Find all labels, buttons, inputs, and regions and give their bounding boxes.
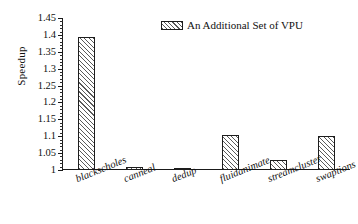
- y-tick-minor: [60, 21, 63, 22]
- legend-swatch-icon: [161, 21, 183, 30]
- y-tick-minor: [60, 75, 63, 76]
- y-tick-minor: [60, 92, 63, 93]
- y-tick-label: 1.3: [43, 63, 56, 74]
- y-tick-label: 1.4: [43, 30, 56, 41]
- bar-fluidanimate: [222, 135, 239, 170]
- y-tick-minor: [60, 163, 63, 164]
- y-tick-major: [58, 52, 63, 53]
- bar-swaptions: [318, 136, 335, 170]
- y-tick-minor: [60, 32, 63, 33]
- y-tick-minor: [60, 113, 63, 114]
- y-tick-major: [58, 170, 63, 171]
- bar-chart: Speedup 11.051.11.151.21.251.31.351.41.4…: [0, 0, 358, 224]
- y-tick-minor: [60, 48, 63, 49]
- y-tick-minor: [60, 28, 63, 29]
- y-tick-minor: [60, 59, 63, 60]
- y-tick-label: 1.15: [38, 114, 56, 125]
- legend-label: An Additional Set of VPU: [187, 19, 303, 31]
- y-tick-minor: [60, 109, 63, 110]
- y-tick-minor: [60, 146, 63, 147]
- y-tick-major: [58, 86, 63, 87]
- y-tick-minor: [60, 140, 63, 141]
- y-tick-minor: [60, 45, 63, 46]
- y-tick-minor: [60, 25, 63, 26]
- y-tick-minor: [60, 133, 63, 134]
- y-tick-major: [58, 18, 63, 19]
- y-tick-minor: [60, 143, 63, 144]
- y-tick-minor: [60, 150, 63, 151]
- y-tick-label: 1.2: [43, 97, 56, 108]
- y-tick-minor: [60, 96, 63, 97]
- plot-area: 11.051.11.151.21.251.31.351.41.45 blacks…: [62, 18, 350, 170]
- y-tick-minor: [60, 55, 63, 56]
- y-tick-label: 1: [51, 165, 56, 176]
- y-tick-label: 1.45: [38, 13, 56, 24]
- y-tick-major: [58, 69, 63, 70]
- y-tick-major: [58, 119, 63, 120]
- y-tick-major: [58, 153, 63, 154]
- y-tick-minor: [60, 62, 63, 63]
- y-tick-minor: [60, 65, 63, 66]
- y-tick-minor: [60, 106, 63, 107]
- y-tick-major: [58, 136, 63, 137]
- y-tick-minor: [60, 116, 63, 117]
- y-tick-label: 1.35: [38, 47, 56, 58]
- y-tick-minor: [60, 123, 63, 124]
- y-tick-major: [58, 102, 63, 103]
- y-tick-minor: [60, 38, 63, 39]
- bar-blackscholes: [78, 37, 95, 170]
- y-tick-minor: [60, 156, 63, 157]
- y-axis-title: Speedup: [15, 21, 27, 111]
- y-tick-minor: [60, 160, 63, 161]
- y-tick-minor: [60, 82, 63, 83]
- y-tick-minor: [60, 126, 63, 127]
- y-tick-minor: [60, 99, 63, 100]
- y-tick-minor: [60, 129, 63, 130]
- y-tick-minor: [60, 89, 63, 90]
- y-tick-label: 1.25: [38, 80, 56, 91]
- y-tick-major: [58, 35, 63, 36]
- y-tick-minor: [60, 42, 63, 43]
- x-tick-label-canneal: canneal: [122, 162, 157, 185]
- legend: An Additional Set of VPU: [161, 19, 303, 31]
- y-tick-minor: [60, 72, 63, 73]
- y-tick-minor: [60, 79, 63, 80]
- y-tick-label: 1.05: [38, 148, 56, 159]
- y-tick-label: 1.1: [43, 131, 56, 142]
- y-tick-minor: [60, 167, 63, 168]
